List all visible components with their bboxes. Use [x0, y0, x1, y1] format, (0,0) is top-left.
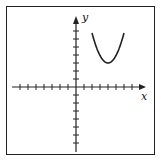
- y-axis-label: y: [82, 11, 88, 24]
- parabola-curve: [92, 33, 124, 63]
- coordinate-plane: [0, 0, 161, 166]
- y-axis: [73, 16, 79, 152]
- x-axis: [12, 84, 146, 90]
- x-axis-label: x: [141, 90, 147, 103]
